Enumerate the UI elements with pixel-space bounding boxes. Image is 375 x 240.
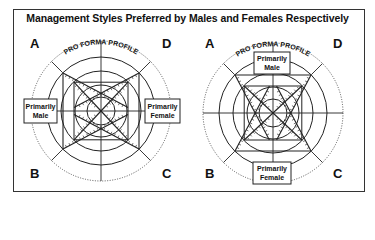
hatch-tick bbox=[86, 119, 87, 121]
hatch-tick bbox=[305, 144, 307, 145]
hatch-tick bbox=[241, 140, 243, 141]
hatch-tick bbox=[111, 132, 112, 134]
hatch-tick bbox=[298, 130, 300, 131]
left-diagram: A D B C PRO FORMA PROFILE Primarily Male… bbox=[24, 36, 180, 181]
hatch-tick bbox=[263, 127, 265, 128]
hatch-tick bbox=[297, 137, 299, 139]
hatch-tick bbox=[252, 119, 254, 120]
hatch-tick bbox=[91, 103, 93, 105]
hatch-tick bbox=[292, 119, 294, 120]
hatch-tick bbox=[128, 141, 129, 143]
hatch-tick bbox=[122, 115, 123, 117]
hatch-tick bbox=[86, 97, 88, 99]
hatch-tick bbox=[265, 103, 267, 105]
hatch-tick bbox=[239, 144, 241, 145]
hatch-tick bbox=[104, 128, 105, 130]
hatch-tick bbox=[253, 132, 255, 134]
hatch-tick bbox=[279, 130, 281, 131]
diagonal-spoke bbox=[311, 64, 322, 75]
hatch-tick bbox=[90, 132, 91, 134]
primarily-female-box: Primarily Female bbox=[145, 99, 180, 123]
hatch-tick bbox=[250, 90, 252, 92]
diagonal-spoke bbox=[224, 151, 235, 162]
hatch-tick bbox=[285, 126, 287, 128]
hatch-tick bbox=[106, 115, 108, 117]
hatch-tick bbox=[107, 90, 108, 92]
diagonal-spoke bbox=[311, 151, 322, 162]
male-label-line2: Male bbox=[33, 112, 49, 119]
hatch-tick bbox=[87, 134, 88, 136]
hatch-tick bbox=[294, 90, 296, 92]
hatch-tick bbox=[86, 123, 88, 125]
hatch-tick bbox=[104, 92, 105, 94]
hatch-tick bbox=[65, 75, 66, 77]
hatch-tick bbox=[265, 121, 267, 123]
profile-line bbox=[277, 75, 311, 140]
hatch-tick bbox=[281, 127, 283, 128]
male-label-line2: Male bbox=[264, 64, 280, 71]
hatch-tick bbox=[117, 126, 119, 128]
hatch-tick bbox=[132, 77, 133, 79]
corner-c-label: C bbox=[162, 166, 172, 181]
hatch-tick bbox=[83, 94, 85, 96]
hatch-tick bbox=[253, 92, 255, 94]
diagonal-spoke bbox=[224, 64, 235, 75]
hatch-tick bbox=[265, 130, 267, 131]
diagonal-spoke bbox=[52, 149, 63, 160]
hatch-tick bbox=[82, 103, 83, 105]
hatch-tick bbox=[80, 129, 82, 131]
female-label-line1: Primarily bbox=[148, 103, 178, 111]
female-label-line2: Female bbox=[260, 174, 284, 181]
hatch-tick bbox=[118, 84, 119, 86]
hatch-tick bbox=[307, 77, 309, 78]
hatch-tick bbox=[114, 86, 115, 88]
corner-a-label: A bbox=[205, 36, 215, 51]
hatch-tick bbox=[265, 94, 267, 95]
hatch-tick bbox=[256, 129, 258, 131]
female-label-line1: Primarily bbox=[257, 165, 287, 173]
profile-line bbox=[74, 73, 139, 107]
hatch-tick bbox=[65, 145, 66, 147]
hatch-tick bbox=[237, 77, 239, 78]
hatch-tick bbox=[94, 90, 95, 92]
hatch-tick bbox=[303, 140, 305, 141]
profile-line bbox=[277, 86, 311, 151]
hatch-tick bbox=[277, 134, 279, 135]
hatch-tick bbox=[252, 106, 254, 107]
hatch-tick bbox=[248, 99, 250, 100]
hatch-tick bbox=[75, 85, 77, 87]
hatch-tick bbox=[285, 98, 287, 100]
hatch-tick bbox=[120, 91, 122, 93]
hatch-tick bbox=[250, 135, 252, 137]
profile-line bbox=[74, 115, 139, 149]
profile-line bbox=[235, 86, 269, 151]
hatch-tick bbox=[281, 98, 283, 99]
hatch-tick bbox=[250, 102, 252, 103]
hatch-tick bbox=[241, 84, 243, 85]
corner-a-label: A bbox=[30, 36, 40, 51]
hatch-tick bbox=[288, 95, 290, 97]
hatch-tick bbox=[69, 143, 70, 145]
primarily-female-box: Primarily Female bbox=[253, 162, 291, 184]
hatch-tick bbox=[87, 86, 88, 88]
hatch-tick bbox=[268, 118, 270, 120]
corner-b-label: B bbox=[30, 166, 39, 181]
hatch-tick bbox=[114, 97, 116, 99]
hatch-tick bbox=[248, 126, 250, 127]
hatch-tick bbox=[109, 118, 111, 120]
hatch-tick bbox=[297, 87, 299, 89]
hatch-tick bbox=[94, 106, 96, 108]
hatch-tick bbox=[303, 84, 305, 85]
hatch-tick bbox=[94, 115, 96, 117]
hatch-tick bbox=[256, 95, 258, 97]
hatch-tick bbox=[122, 105, 123, 107]
hatch-tick bbox=[106, 106, 108, 108]
primarily-male-box: Primarily Male bbox=[24, 99, 57, 123]
hatch-tick bbox=[135, 145, 136, 147]
hatch-tick bbox=[111, 88, 112, 90]
hatch-tick bbox=[72, 141, 73, 143]
hatch-tick bbox=[90, 88, 91, 90]
hatch-tick bbox=[120, 129, 122, 131]
hatch-tick bbox=[82, 117, 83, 119]
profile-line bbox=[63, 115, 128, 149]
